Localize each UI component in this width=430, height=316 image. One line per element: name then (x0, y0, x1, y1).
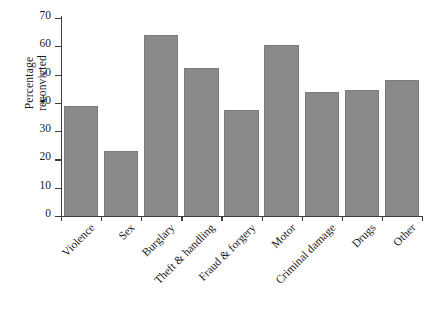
y-axis-tick: 40 (55, 103, 61, 104)
x-axis-tick (422, 216, 423, 221)
bar (104, 151, 138, 216)
bar (345, 90, 379, 216)
x-axis-tick (262, 216, 263, 221)
bar (264, 45, 298, 216)
y-axis-tick-label: 40 (25, 95, 51, 107)
x-axis-tick (342, 216, 343, 221)
bar (184, 68, 218, 217)
bar (144, 35, 178, 216)
y-axis-tick-label: 20 (25, 151, 51, 163)
bar (305, 92, 339, 216)
x-axis-tick (382, 216, 383, 221)
x-axis-line (61, 216, 422, 217)
y-axis-tick-label: 50 (25, 67, 51, 79)
y-axis-tick-label: 60 (25, 38, 51, 50)
y-axis-tick-label: 10 (25, 180, 51, 192)
x-axis-tick (181, 216, 182, 221)
x-axis-tick (302, 216, 303, 221)
x-axis-tick (141, 216, 142, 221)
y-axis-tick-label: 70 (25, 10, 51, 22)
bar (64, 106, 98, 216)
y-axis-tick: 20 (55, 159, 61, 160)
y-axis-tick: 60 (55, 46, 61, 47)
y-axis-tick-label: 0 (25, 208, 51, 220)
y-axis-tick: 10 (55, 188, 61, 189)
x-axis-tick (101, 216, 102, 221)
plot-area: 010203040506070 (61, 18, 422, 216)
y-axis-tick: 70 (55, 18, 61, 19)
x-axis-tick (61, 216, 62, 221)
bar-chart: Percentage reconvicted 010203040506070 V… (0, 0, 430, 316)
bar (385, 80, 419, 216)
bar (224, 110, 258, 216)
y-axis-tick-label: 30 (25, 123, 51, 135)
x-axis-labels: ViolenceSexBurglaryTheft & handlingFraud… (61, 222, 422, 316)
y-axis-tick: 30 (55, 131, 61, 132)
y-axis-tick: 50 (55, 75, 61, 76)
x-axis-tick (221, 216, 222, 221)
